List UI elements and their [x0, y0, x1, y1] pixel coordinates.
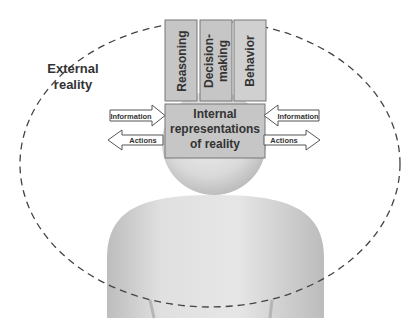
right-actions-arrow: Actions — [264, 130, 320, 150]
person-arm-gap-right — [270, 300, 272, 318]
internal-line2: representations — [170, 122, 260, 136]
right-information-arrow: Information — [264, 105, 319, 126]
top-box-behavior: Behavior — [234, 20, 266, 101]
external-label-line1: External — [47, 61, 98, 76]
left-actions-label: Actions — [129, 136, 157, 145]
internal-line1: Internal — [193, 107, 236, 121]
top-box-decision-making: Decision- making — [200, 20, 232, 101]
decision-label-line2: making — [216, 40, 230, 82]
mental-model-diagram: Reasoning Decision- making Behavior Inte… — [0, 0, 418, 333]
internal-representations-box: Internal representations of reality — [165, 104, 265, 158]
external-label-line2: reality — [54, 77, 93, 92]
decision-label-line1: Decision- — [202, 34, 216, 88]
reasoning-label: Reasoning — [175, 30, 189, 91]
behavior-label: Behavior — [243, 35, 257, 87]
left-info-label: Information — [110, 112, 152, 121]
top-box-reasoning: Reasoning — [165, 20, 197, 101]
right-actions-label: Actions — [270, 136, 298, 145]
right-info-label: Information — [277, 112, 319, 121]
internal-line3: of reality — [190, 137, 240, 151]
left-actions-arrow: Actions — [108, 130, 163, 150]
left-information-arrow: Information — [110, 105, 165, 126]
person-body — [107, 195, 324, 318]
